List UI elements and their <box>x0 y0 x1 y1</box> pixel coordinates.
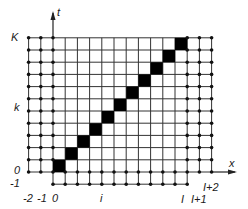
grid-node-dot <box>185 182 189 186</box>
grid-node-dot <box>100 182 104 186</box>
x-axis-arrow-icon <box>228 170 237 175</box>
grid-node-dot <box>210 97 214 101</box>
grid-node-dot <box>149 170 153 174</box>
grid-node-dot <box>51 170 55 174</box>
grid-node-dot <box>198 170 202 174</box>
grid-node-dot <box>210 73 214 77</box>
grid-node-dot <box>112 182 116 186</box>
grid-node-dot <box>51 182 55 186</box>
grid-node-dot <box>39 36 43 40</box>
grid-node-dot <box>185 109 189 113</box>
grid-node-dot <box>39 146 43 150</box>
grid-node-dot <box>51 85 55 89</box>
grid-node-dot <box>51 60 55 64</box>
grid-node-dot <box>51 36 55 40</box>
x-axis-label: x <box>229 158 235 169</box>
grid-node-dot <box>27 60 31 64</box>
grid-node-dot <box>88 182 92 186</box>
grid-node-dot <box>185 97 189 101</box>
grid-node-dot <box>210 170 214 174</box>
grid-node-dot <box>76 182 80 186</box>
grid-node-dot <box>39 170 43 174</box>
grid-node-dot <box>198 97 202 101</box>
grid-node-dot <box>124 182 128 186</box>
grid-node-dot <box>27 73 31 77</box>
grid-node-dot <box>210 109 214 113</box>
grid-node-dot <box>39 158 43 162</box>
highlighted-cell <box>138 74 150 86</box>
grid-node-dot <box>210 134 214 138</box>
grid-node-dot <box>39 73 43 77</box>
highlighted-cell <box>53 160 65 172</box>
grid-node-dot <box>173 170 177 174</box>
grid-node-dot <box>137 182 141 186</box>
grid-node-dot <box>185 73 189 77</box>
grid-node-dot <box>210 158 214 162</box>
grid-node-dot <box>27 158 31 162</box>
t-axis-arrow-icon <box>51 11 56 20</box>
grid-node-dot <box>27 109 31 113</box>
row-label-0: 0 <box>14 165 20 176</box>
highlighted-cell <box>90 123 102 135</box>
row-label-k: k <box>14 102 20 113</box>
grid-node-dot <box>198 134 202 138</box>
grid-node-dot <box>51 97 55 101</box>
grid-node-dot <box>51 73 55 77</box>
grid-node-dot <box>124 170 128 174</box>
grid-node-dot <box>185 85 189 89</box>
grid-node-dot <box>137 170 141 174</box>
grid-node-dot <box>198 158 202 162</box>
col-label-0: 0 <box>52 193 58 204</box>
grid-node-dot <box>198 85 202 89</box>
col-label-I-plus-1: I+1 <box>191 194 207 205</box>
highlighted-cell <box>151 62 163 74</box>
grid-node-dot <box>112 170 116 174</box>
t-axis-label: t <box>57 7 60 18</box>
col-label-I-plus-2: I+2 <box>203 182 219 193</box>
grid-node-dot <box>149 182 153 186</box>
grid-node-dot <box>198 36 202 40</box>
grid-node-dot <box>161 170 165 174</box>
grid-node-dot <box>185 36 189 40</box>
grid-node-dot <box>185 60 189 64</box>
grid-node-dot <box>198 48 202 52</box>
highlighted-cell <box>163 50 175 62</box>
grid-node-dot <box>185 48 189 52</box>
grid-node-dot <box>27 170 31 174</box>
grid-node-dot <box>210 48 214 52</box>
grid-node-dot <box>39 48 43 52</box>
grid-node-dot <box>51 109 55 113</box>
highlighted-cell <box>114 99 126 111</box>
grid-node-dot <box>210 85 214 89</box>
grid-node-dot <box>210 60 214 64</box>
grid-node-dot <box>27 85 31 89</box>
grid-node-dot <box>185 158 189 162</box>
grid-node-dot <box>173 182 177 186</box>
grid-node-dot <box>27 121 31 125</box>
col-label-i: i <box>100 193 102 204</box>
highlighted-cell <box>175 38 187 50</box>
grid-node-dot <box>39 134 43 138</box>
grid-node-dot <box>39 109 43 113</box>
col-label-minus2: -2 <box>23 193 33 204</box>
grid-node-dot <box>198 109 202 113</box>
row-label-K: K <box>11 32 18 43</box>
highlighted-cell <box>102 111 114 123</box>
grid-node-dot <box>51 158 55 162</box>
grid-node-dot <box>27 97 31 101</box>
highlighted-cell <box>65 148 77 160</box>
col-label-I: I <box>181 194 184 205</box>
grid-node-dot <box>185 170 189 174</box>
grid-node-dot <box>198 146 202 150</box>
grid-node-dot <box>198 73 202 77</box>
grid-node-dot <box>210 121 214 125</box>
grid-node-dot <box>39 97 43 101</box>
grid-node-dot <box>161 182 165 186</box>
grid-node-dot <box>27 48 31 52</box>
grid-node-dot <box>198 121 202 125</box>
highlighted-cell <box>77 135 89 147</box>
grid-node-dot <box>100 170 104 174</box>
grid-node-dot <box>51 134 55 138</box>
grid-node-dot <box>210 36 214 40</box>
grid-node-dot <box>63 182 67 186</box>
